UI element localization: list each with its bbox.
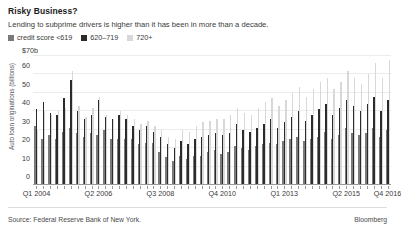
bar-group [205,56,212,185]
legend-item[interactable]: 620–719 [81,34,118,42]
bar [120,111,121,185]
bar-group [109,56,116,185]
bar [292,93,293,185]
y-axis-tick-label: 40 [22,99,30,107]
bar-group [157,56,164,185]
bar-group [81,56,88,185]
y-axis-tick-label: 0 [26,173,30,181]
bar-group [74,56,81,185]
bar-group [129,56,136,185]
bar-group [185,56,192,185]
bar [320,82,321,185]
y-axis-tick-label: 60 [22,62,30,70]
bar-group [102,56,109,185]
source-note: Source: Federal Reserve Bank of New York… [8,216,141,224]
bar-group [54,56,61,185]
bar-group [178,56,185,185]
footer-divider [8,207,387,208]
bar [92,108,93,185]
bar [72,71,73,185]
bar [278,106,279,185]
bar [299,87,300,185]
bar [354,78,355,185]
brand-label: Bloomberg [354,216,387,224]
bar-group [357,56,364,185]
chart-footer: Source: Federal Reserve Bank of New York… [0,216,395,224]
y-axis-top-label: $70b [22,47,38,55]
bar [168,137,169,185]
bar-group [219,56,226,185]
x-axis-tick-label: Q1 2004 [23,189,51,198]
y-axis-tick-label: 50 [22,81,30,89]
bar-group [143,56,150,185]
bar [313,89,314,185]
bar-group [33,56,40,185]
bar [182,130,183,185]
bar [285,100,286,185]
legend-swatch-icon [127,35,133,41]
bar-group [336,56,343,185]
bar-group [384,56,391,185]
x-axis-labels: Q1 2004Q2 2006Q3 2008Q4 2010Q1 2013Q2 20… [33,189,391,199]
bar [361,84,362,185]
y-axis-title: Auto loan originations (billions) [8,52,15,162]
bar-group [116,56,123,185]
bar [340,82,341,185]
bar-group [274,56,281,185]
x-axis-tick-label: Q2 2006 [85,189,113,198]
bar-group [40,56,47,185]
bar-group [233,56,240,185]
plot-region: 0102030405060 [33,56,391,185]
bar [251,115,252,185]
y-axis-tick-label: 30 [22,118,30,126]
bar-group [136,56,143,185]
bar [389,60,390,185]
bar [85,117,86,185]
bar [44,111,45,185]
bar-group [329,56,336,185]
bar [58,111,59,185]
bar [106,115,107,185]
bar [127,115,128,185]
bar [99,97,100,185]
x-axis-tick-label: Q3 2008 [147,189,175,198]
bar-group [350,56,357,185]
bar-group [47,56,54,185]
x-axis-tick-label: Q2 2015 [332,189,360,198]
bar-group [164,56,171,185]
bar [265,102,266,185]
bar-group [302,56,309,185]
bar [375,63,376,185]
bar-group [364,56,371,185]
legend-swatch-icon [8,35,14,41]
bar [327,78,328,185]
bar-group [88,56,95,185]
y-axis-tick-label: 10 [22,155,30,163]
chart-subtitle: Lending to subprime drivers is higher th… [8,19,387,30]
bar-group [247,56,254,185]
legend-swatch-icon [81,35,87,41]
bar-group [260,56,267,185]
legend-item[interactable]: 720+ [127,34,152,42]
bar [147,121,148,186]
chart-area: $70b Auto loan originations (billions) 0… [0,47,395,199]
y-axis-tick-label: 20 [22,136,30,144]
page-title: Risky Business? [8,6,387,17]
bar-group [295,56,302,185]
bar [230,115,231,185]
bar [368,74,369,185]
bar [161,130,162,185]
x-axis-tick-label: Q4 2010 [209,189,237,198]
bar [382,78,383,185]
x-axis-tick-label: Q1 2013 [270,189,298,198]
bar-group [240,56,247,185]
bar [37,130,38,185]
legend-item[interactable]: credit score <619 [8,34,72,42]
bar [223,119,224,185]
bar-group [322,56,329,185]
bar [237,108,238,185]
bar [271,98,272,185]
bar [306,97,307,185]
bar [113,119,114,185]
